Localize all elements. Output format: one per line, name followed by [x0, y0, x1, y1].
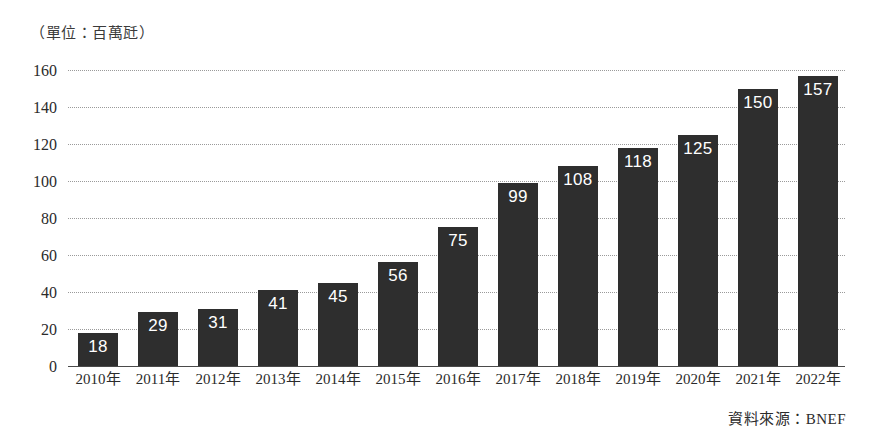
x-axis-tick-label: 2016年 — [428, 372, 488, 387]
bar-value-label: 29 — [138, 316, 178, 336]
bar-value-label: 150 — [738, 93, 778, 113]
x-axis-tick-label: 2018年 — [548, 372, 608, 387]
y-axis-tick-label: 160 — [33, 63, 57, 79]
bar-value-label: 31 — [198, 313, 238, 333]
bar: 18 — [78, 333, 118, 366]
bar: 150 — [738, 89, 778, 367]
x-axis-tick-label: 2015年 — [368, 372, 428, 387]
bar-group: 1252020年 — [668, 70, 728, 366]
bar: 56 — [378, 262, 418, 366]
x-axis-tick-label: 2011年 — [128, 372, 188, 387]
source-note: 資料來源：BNEF — [728, 412, 846, 427]
y-axis-tick-label: 100 — [33, 174, 57, 190]
bar-value-label: 75 — [438, 231, 478, 251]
bar-group: 182010年 — [68, 70, 128, 366]
bar: 31 — [198, 309, 238, 366]
bar-value-label: 56 — [378, 266, 418, 286]
bar: 75 — [438, 227, 478, 366]
y-axis-tick-label: 60 — [41, 248, 57, 264]
axis-baseline: 0 — [68, 366, 845, 367]
x-axis-tick-label: 2020年 — [668, 372, 728, 387]
y-axis-tick-label: 120 — [33, 137, 57, 153]
bar-group: 1502021年 — [728, 70, 788, 366]
bar-series: 182010年292011年312012年412013年452014年56201… — [68, 70, 845, 366]
x-axis-tick-label: 2017年 — [488, 372, 548, 387]
bar-group: 1182019年 — [608, 70, 668, 366]
bar-value-label: 157 — [798, 80, 838, 100]
y-axis-tick-label: 80 — [41, 211, 57, 227]
plot-area: 020406080100120140160 182010年292011年3120… — [68, 70, 845, 366]
unit-caption: （單位：百萬瓩） — [30, 26, 154, 41]
bar-value-label: 108 — [558, 170, 598, 190]
x-axis-tick-label: 2022年 — [788, 372, 848, 387]
bar-group: 562015年 — [368, 70, 428, 366]
bar: 45 — [318, 283, 358, 366]
y-axis-tick-label: 20 — [41, 322, 57, 338]
bar-group: 1572022年 — [788, 70, 848, 366]
bar-group: 1082018年 — [548, 70, 608, 366]
x-axis-tick-label: 2013年 — [248, 372, 308, 387]
bar-group: 292011年 — [128, 70, 188, 366]
bar-value-label: 41 — [258, 294, 298, 314]
bar-group: 992017年 — [488, 70, 548, 366]
bar: 108 — [558, 166, 598, 366]
bar-value-label: 99 — [498, 187, 538, 207]
x-axis-tick-label: 2019年 — [608, 372, 668, 387]
bar: 99 — [498, 183, 538, 366]
bar-chart: （單位：百萬瓩） 020406080100120140160 182010年29… — [0, 0, 872, 448]
bar-value-label: 118 — [618, 152, 658, 172]
y-axis-tick-label: 40 — [41, 285, 57, 301]
bar-value-label: 18 — [78, 337, 118, 357]
bar: 29 — [138, 312, 178, 366]
bar: 157 — [798, 76, 838, 366]
x-axis-tick-label: 2010年 — [68, 372, 128, 387]
bar: 118 — [618, 148, 658, 366]
y-axis-tick-label: 140 — [33, 100, 57, 116]
bar-value-label: 45 — [318, 287, 358, 307]
x-axis-tick-label: 2012年 — [188, 372, 248, 387]
bar: 41 — [258, 290, 298, 366]
bar: 125 — [678, 135, 718, 366]
bar-value-label: 125 — [678, 139, 718, 159]
bar-group: 752016年 — [428, 70, 488, 366]
x-axis-tick-label: 2014年 — [308, 372, 368, 387]
x-axis-tick-label: 2021年 — [728, 372, 788, 387]
bar-group: 452014年 — [308, 70, 368, 366]
y-axis-tick-label: 0 — [49, 359, 57, 375]
bar-group: 312012年 — [188, 70, 248, 366]
bar-group: 412013年 — [248, 70, 308, 366]
